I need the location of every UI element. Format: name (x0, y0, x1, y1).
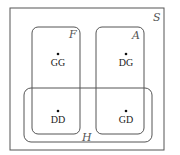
outcome-label: GD (119, 114, 133, 125)
outcome-label: DD (51, 114, 65, 125)
set-f-label: F (68, 28, 77, 41)
outcome-dot (57, 53, 60, 56)
outcome-dot (57, 110, 60, 113)
outcome-label: GG (51, 57, 65, 68)
outcome-dot (125, 53, 128, 56)
outcome-dg: DG (119, 53, 133, 68)
outcome-gd: GD (119, 110, 133, 125)
outcome-label: DG (119, 57, 133, 68)
outcome-dd: DD (51, 110, 65, 125)
set-a-label: A (131, 29, 140, 42)
set-h-label: H (81, 131, 92, 144)
sample-space-label: S (153, 11, 161, 24)
outcome-gg: GG (51, 53, 65, 68)
venn-diagram: S F A H GG DG DD GD (0, 0, 180, 155)
outcome-dot (125, 110, 128, 113)
